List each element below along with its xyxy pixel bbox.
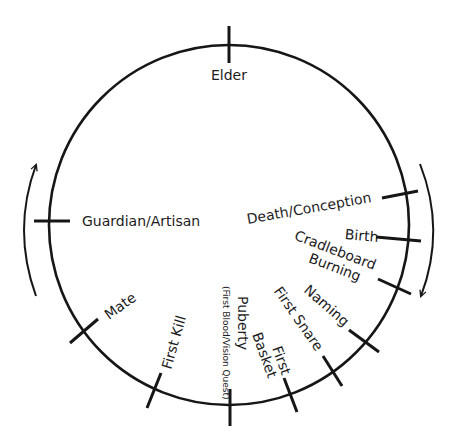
label-first-kill: First Kill	[159, 314, 189, 371]
tick-naming	[349, 330, 379, 352]
label-death-conception: Death/Conception	[245, 189, 372, 227]
tick-mate	[70, 319, 98, 343]
tick-death-conception	[382, 191, 418, 198]
life-cycle-diagram: Elder Death/Conception Birth Cradleboard…	[0, 0, 455, 447]
label-mate: Mate	[101, 289, 139, 322]
tick-birth	[376, 237, 421, 241]
tick-first-snare	[323, 356, 342, 386]
left-direction-arrow	[24, 165, 36, 296]
tick-cradleboard-burning	[378, 279, 411, 294]
label-puberty-sub: (First Blood/Vision Quest)	[221, 286, 231, 400]
label-birth: Birth	[344, 226, 379, 245]
label-guardian-artisan: Guardian/Artisan	[82, 213, 200, 229]
label-first-basket: First Basket	[249, 325, 294, 382]
right-direction-arrow	[420, 164, 433, 296]
label-elder: Elder	[211, 67, 247, 83]
label-puberty: Puberty (First Blood/Vision Quest)	[221, 286, 251, 400]
diagram-canvas: Elder Death/Conception Birth Cradleboard…	[0, 0, 455, 447]
label-puberty-main: Puberty	[235, 296, 251, 350]
